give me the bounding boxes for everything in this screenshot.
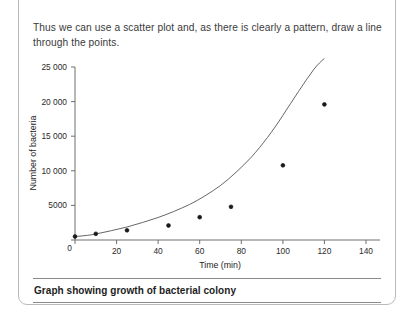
origin-zero-label: 0 [67,243,72,253]
data-points [73,103,326,239]
data-point [73,235,77,239]
y-tick-label-15000: 15 000 [41,131,67,141]
data-point [198,215,202,219]
x-tick-label-40: 40 [153,246,163,256]
bacteria-growth-chart: 25 000 20 000 15 000 10 000 5000 0 [18,52,396,270]
x-tick-label-80: 80 [237,246,247,256]
x-tick-label-100: 100 [276,246,290,256]
y-tick-label-25000: 25 000 [41,62,67,72]
y-tick-label-20000: 20 000 [41,97,67,107]
figure-caption-text: Graph showing growth of bacterial colony [33,279,381,302]
x-tick-label-120: 120 [317,246,331,256]
data-point [125,228,129,232]
x-axis-ticks [75,240,366,244]
x-axis-tick-labels: 20 40 60 80 100 120 140 [112,246,373,256]
y-tick-label-5000: 5000 [48,200,67,210]
y-tick-label-10000: 10 000 [41,166,67,176]
caption-rule-bottom [33,302,381,303]
figure-page: Thus we can use a scatter plot and, as t… [0,0,416,328]
data-point [94,232,98,236]
y-axis-title: Number of bacteria [28,115,38,190]
x-axis-title: Time (min) [199,260,241,270]
data-point [229,205,233,209]
data-point [323,103,327,107]
x-tick-label-140: 140 [359,246,373,256]
fitted-curve [75,58,324,236]
intro-paragraph: Thus we can use a scatter plot and, as t… [33,20,383,50]
x-tick-label-60: 60 [195,246,205,256]
figure-caption-block: Graph showing growth of bacterial colony [33,278,381,303]
chart-svg: 25 000 20 000 15 000 10 000 5000 0 [18,52,396,270]
y-axis-tick-labels: 25 000 20 000 15 000 10 000 5000 [41,62,67,210]
x-tick-label-20: 20 [112,246,122,256]
data-point [281,163,285,167]
data-point [167,224,171,228]
y-axis-ticks [71,67,75,240]
